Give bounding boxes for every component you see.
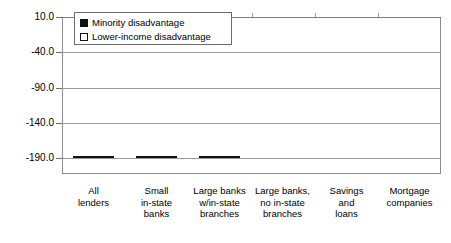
category-label-line: companies [378, 197, 441, 209]
x-axis-category-label: Large banksw/in-statebranches [188, 185, 251, 220]
legend-item-lower-income: Lower-income disadvantage [80, 30, 227, 43]
legend-label-lower-income: Lower-income disadvantage [92, 31, 211, 42]
bar-chart: -190.0-140.0-90.0-40.010.0 Minority disa… [0, 0, 451, 243]
y-axis-tick-label-wrap: -190.0 [0, 153, 54, 163]
bar-group [389, 17, 430, 158]
x-axis-tick [315, 13, 316, 17]
x-axis-tick [252, 13, 253, 17]
bar-segment-lower-income [73, 156, 114, 158]
x-axis-category-label: Smallin-statebanks [125, 185, 188, 220]
y-axis-tick-label: -90.0 [2, 83, 54, 93]
legend-label-minority: Minority disadvantage [92, 17, 184, 28]
x-axis-category-labels: AlllendersSmallin-statebanksLarge banksw… [62, 185, 441, 241]
category-label-line: Large banks, [251, 185, 314, 197]
category-label-line: w/in-state [188, 197, 251, 209]
category-label-line: banks [125, 208, 188, 220]
bar-group [263, 17, 304, 158]
category-label-line: branches [251, 208, 314, 220]
category-label-line: Small [125, 185, 188, 197]
bar-segment-lower-income [199, 156, 240, 158]
x-axis-category-label: Savingsandloans [315, 185, 378, 220]
category-label-line: lenders [62, 197, 125, 209]
category-label-line: and [315, 197, 378, 209]
category-label-line: loans [315, 208, 378, 220]
y-axis-tick-label: -40.0 [2, 47, 54, 57]
y-axis-tick-label-wrap: -140.0 [0, 118, 54, 128]
y-axis-tick-label-wrap: -90.0 [0, 83, 54, 93]
y-axis-tick-label-wrap: 10.0 [0, 12, 54, 22]
legend-item-minority: Minority disadvantage [80, 16, 227, 29]
y-axis-tick-label: 10.0 [2, 12, 54, 22]
chart-legend: Minority disadvantage Lower-income disad… [74, 12, 232, 45]
legend-swatch-lower-income-icon [80, 33, 88, 41]
category-label-line: Savings [315, 185, 378, 197]
x-axis-tick [378, 13, 379, 17]
y-axis-tick-label: -140.0 [2, 118, 54, 128]
y-axis-tick-label-wrap: -40.0 [0, 47, 54, 57]
gridline [62, 158, 441, 159]
category-label-line: in-state [125, 197, 188, 209]
x-axis-category-label: Alllenders [62, 185, 125, 208]
bar-group [326, 17, 367, 158]
bar-segment-lower-income [136, 156, 177, 158]
x-axis-category-label: Mortgagecompanies [378, 185, 441, 208]
x-axis-category-label: Large banks,no in-statebranches [251, 185, 314, 220]
category-label-line: Large banks [188, 185, 251, 197]
category-label-line: All [62, 185, 125, 197]
legend-swatch-minority-icon [80, 19, 88, 27]
category-label-line: branches [188, 208, 251, 220]
y-axis-tick-label: -190.0 [2, 153, 54, 163]
category-label-line: no in-state [251, 197, 314, 209]
category-label-line: Mortgage [378, 185, 441, 197]
